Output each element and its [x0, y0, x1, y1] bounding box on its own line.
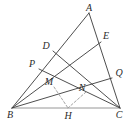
segment-bq [12, 78, 112, 108]
point-label-h: H [64, 111, 71, 121]
geometry-figure: AEDPQMNBHC [0, 0, 134, 124]
point-label-c: C [116, 110, 123, 120]
geometry-canvas [0, 0, 134, 124]
segment-ac [89, 13, 120, 108]
point-label-n: N [79, 83, 86, 93]
point-label-d: D [42, 41, 49, 51]
point-label-m: M [45, 77, 53, 87]
segment-mh [54, 87, 68, 108]
point-label-a: A [86, 3, 92, 13]
point-label-p: P [29, 59, 35, 69]
point-label-q: Q [115, 68, 122, 78]
segment-cd [53, 51, 120, 108]
segment-ab [12, 13, 89, 108]
point-label-b: B [7, 110, 13, 120]
point-label-e: E [103, 31, 109, 41]
segment-be [12, 42, 101, 108]
segment-nh [68, 92, 86, 108]
